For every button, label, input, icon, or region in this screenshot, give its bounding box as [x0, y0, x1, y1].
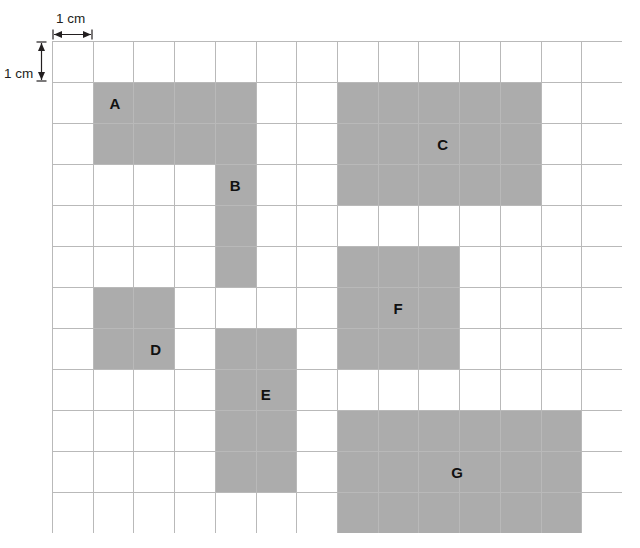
worksheet-page: 1 cm 1 cm ABCDEFG [0, 0, 640, 548]
horizontal-scale-label: 1 cm [56, 12, 85, 26]
shape-layer [52, 41, 622, 533]
vertical-arrow-icon [36, 41, 47, 82]
shape-label-a: A [110, 96, 121, 111]
vertical-scale-label: 1 cm [4, 67, 33, 81]
shape-label-c: C [437, 136, 448, 151]
shape-label-g: G [451, 464, 463, 479]
shape-e [215, 328, 296, 492]
shape-label-d: D [150, 341, 161, 356]
vertical-scale-arrow [36, 41, 47, 82]
shape-label-b: B [230, 177, 241, 192]
shape-label-f: F [393, 300, 402, 315]
shape-d [93, 287, 174, 369]
shape-label-e: E [261, 386, 271, 401]
measurement-grid: ABCDEFG [52, 41, 622, 533]
horizontal-scale-arrow [52, 26, 93, 37]
horizontal-arrow-icon [52, 29, 93, 40]
